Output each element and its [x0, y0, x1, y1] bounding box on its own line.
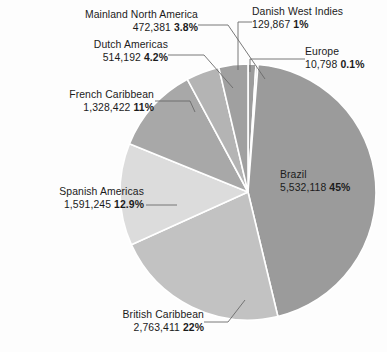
slice-label-name: Spanish Americas — [2, 185, 144, 198]
slice-label-value-row: 5,532,11845% — [280, 181, 384, 194]
slice-label-name: Europe — [305, 45, 385, 58]
slice-label-percent: 3.8% — [174, 22, 198, 33]
slice-label-value: 10,798 — [305, 59, 337, 70]
slice-label-value: 2,763,411 — [134, 322, 180, 333]
slice-label-name: Dutch Americas — [2, 38, 168, 51]
slice-label-mainland-north-america: Mainland North America 472,3813.8% — [2, 8, 198, 34]
slice-label-value-row: 514,1924.2% — [2, 51, 168, 64]
slice-label-spanish-americas: Spanish Americas 1,591,24512.9% — [2, 185, 144, 211]
slice-label-british-caribbean: British Caribbean 2,763,41122% — [56, 308, 204, 334]
slice-label-percent: 11% — [133, 102, 154, 113]
slice-label-dutch-americas: Dutch Americas 514,1924.2% — [2, 38, 168, 64]
slice-label-value-row: 2,763,41122% — [56, 321, 204, 334]
pie-chart-figure: Mainland North America 472,3813.8% Dutch… — [0, 0, 387, 352]
slice-label-name: French Caribbean — [2, 88, 154, 101]
slice-label-percent: 1% — [293, 19, 308, 30]
slice-label-name: Mainland North America — [2, 8, 198, 21]
slice-label-value: 1,328,422 — [83, 102, 130, 113]
slice-label-name: Brazil — [280, 168, 384, 181]
slice-label-name: British Caribbean — [56, 308, 204, 321]
slice-label-value: 514,192 — [103, 52, 141, 63]
slice-label-value-row: 1,328,42211% — [2, 101, 154, 114]
slice-label-europe: Europe 10,7980.1% — [305, 45, 385, 71]
slice-label-value-row: 10,7980.1% — [305, 58, 385, 71]
slice-label-french-caribbean: French Caribbean 1,328,42211% — [2, 88, 154, 114]
slice-label-danish-west-indies: Danish West Indies 129,8671% — [252, 5, 376, 31]
slice-label-name: Danish West Indies — [252, 5, 376, 18]
slice-label-percent: 12.9% — [114, 199, 144, 210]
slice-label-value-row: 472,3813.8% — [2, 21, 198, 34]
slice-label-percent: 45% — [329, 182, 350, 193]
slice-label-value-row: 129,8671% — [252, 18, 376, 31]
slice-label-percent: 4.2% — [144, 52, 168, 63]
slice-label-brazil: Brazil 5,532,11845% — [280, 168, 384, 194]
slice-label-value: 129,867 — [252, 19, 290, 30]
slice-label-value: 5,532,118 — [280, 182, 326, 193]
slice-label-percent: 22% — [183, 322, 204, 333]
slice-label-percent: 0.1% — [340, 59, 364, 70]
slice-label-value-row: 1,591,24512.9% — [2, 198, 144, 211]
slice-label-value: 472,381 — [133, 22, 171, 33]
slice-label-value: 1,591,245 — [64, 199, 111, 210]
